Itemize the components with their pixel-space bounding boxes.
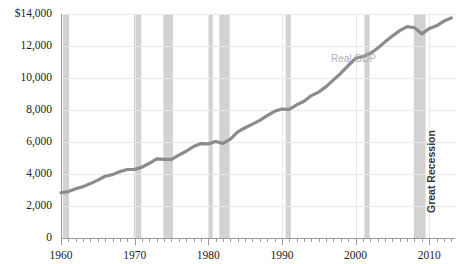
real-gdp-line [61,18,451,193]
recession-band [414,14,426,238]
axes-group [61,14,455,239]
recession-band [63,14,69,238]
y-tick-label: 0 [46,231,52,243]
x-tick-label: 1970 [123,249,146,261]
gdp-line-group [61,18,451,193]
y-tick-label: 10,000 [20,71,52,84]
x-tick-label: 1960 [50,249,73,261]
recession-bands-group [63,14,426,238]
gridlines-group [61,14,455,238]
recession-band [364,14,369,238]
series-label-real-gdp: Real GDP [331,53,376,64]
recession-band [163,14,173,238]
y-tick-labels-group: 02,0004,0006,0008,00010,00012,000$14,000 [15,7,53,243]
recession-band [286,14,291,238]
x-tick-labels-group: 196019701980199020002010 [50,249,441,261]
y-tick-label: 12,000 [20,39,52,52]
recession-band [209,14,213,238]
y-tick-label: 2,000 [26,199,52,212]
x-tick-label: 1980 [197,249,220,261]
x-tick-label: 2010 [418,249,441,261]
y-tick-label: 4,000 [26,167,52,180]
y-tick-label: 6,000 [26,135,52,148]
real-gdp-chart: 02,0004,0006,0008,00010,00012,000$14,000… [0,0,468,264]
recession-band [219,14,229,238]
chart-canvas: 02,0004,0006,0008,00010,00012,000$14,000… [0,0,468,264]
x-tick-label: 2000 [344,249,367,261]
x-tick-label: 1990 [270,249,293,261]
annotation-great-recession: Great Recession [425,130,437,213]
y-tick-label: $14,000 [15,7,53,20]
y-tick-label: 8,000 [26,103,52,116]
minor-ticks-group [62,238,452,245]
